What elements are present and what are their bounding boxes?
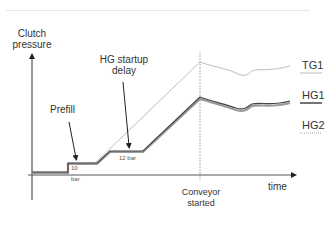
y-axis-label: Clutch pressure <box>12 28 52 50</box>
prefill-label: Prefill <box>50 104 75 115</box>
bar10-unit: bar <box>71 176 80 182</box>
legend-hg1: HG1 <box>302 89 325 101</box>
legend-tg1: TG1 <box>302 59 323 71</box>
bar12-label: 12 bar <box>119 155 136 161</box>
prefill-arrow <box>69 122 76 158</box>
x-axis-label: time <box>268 181 287 192</box>
legend-hg2: HG2 <box>302 119 325 131</box>
series-tg1 <box>32 62 290 172</box>
conveyor-started-label: Conveyor started <box>176 187 226 209</box>
bar10-value: 10 <box>71 165 78 171</box>
hg-startup-delay-label: HG startup delay <box>96 54 152 76</box>
hg-delay-arrow <box>123 82 129 146</box>
